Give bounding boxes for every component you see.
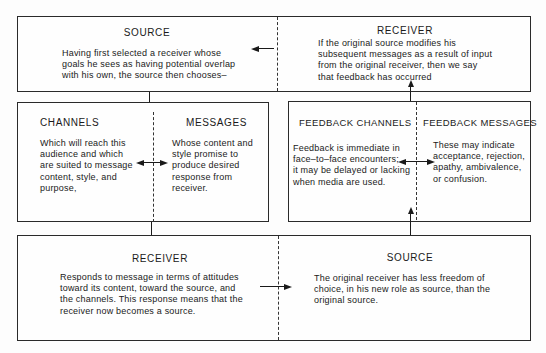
text-line: audience and which: [40, 149, 145, 160]
text-line: acceptance, rejection,: [433, 151, 528, 162]
text-line: choice, in his new role as source, than …: [314, 284, 529, 295]
arrow-channels-messages-line: [142, 162, 162, 163]
arrow-right-icon: [427, 159, 435, 165]
arrow-up-icon: [408, 207, 414, 214]
arrow-left-icon: [251, 46, 259, 52]
messages-text: Whose content and style promise to produ…: [172, 138, 267, 194]
source-title: SOURCE: [17, 27, 277, 38]
text-line: with his own, the source then chooses–: [62, 70, 262, 81]
arrow-right-icon: [284, 284, 292, 290]
bottom-divider: [278, 236, 279, 340]
arrow-receiver-to-source-line: [260, 286, 286, 287]
text-line: purpose,: [40, 183, 145, 194]
feedback-channels-title: FEEDBACK CHANNELS: [299, 117, 411, 128]
text-line: that feedback has occurred: [318, 72, 528, 83]
text-line: The original receiver has less freedom o…: [314, 273, 529, 284]
channels-text: Which will reach this audience and which…: [40, 138, 145, 194]
bottom-receiver-title: RECEIVER: [100, 253, 220, 264]
text-line: response from: [172, 172, 267, 183]
bottom-source-text: The original receiver has less freedom o…: [314, 273, 529, 307]
feedback-channels-text: Feedback is immediate in face–to–face en…: [293, 143, 418, 188]
feedback-messages-title: FEEDBACK MESSAGES: [423, 117, 537, 128]
text-line: Whose content and: [172, 138, 267, 149]
text-line: style promise to: [172, 149, 267, 160]
arrow-up-icon: [408, 80, 414, 87]
channels-messages-divider: [153, 112, 154, 222]
arrow-feedback-channels-messages-line: [404, 161, 428, 162]
top-divider: [277, 17, 278, 91]
source-text: Having first selected a receiver whose g…: [62, 48, 262, 82]
text-line: Having first selected a receiver whose: [62, 48, 262, 59]
text-line: the channels. This response means that t…: [60, 294, 275, 305]
text-line: These may indicate: [433, 140, 528, 151]
text-line: If the original source modifies his: [318, 38, 528, 49]
channels-title: CHANNELS: [40, 117, 99, 128]
text-line: subsequent messages as a result of input: [318, 49, 528, 60]
text-line: goals he sees as having potential overla…: [62, 59, 262, 70]
bottom-source-title: SOURCE: [350, 252, 470, 263]
text-line: from the original receiver, then we say: [318, 60, 528, 71]
text-line: or confusion.: [433, 174, 528, 185]
feedback-messages-text: These may indicate acceptance, rejection…: [433, 140, 528, 185]
text-line: Which will reach this: [40, 138, 145, 149]
arrow-feedback-to-source-line: [258, 48, 274, 49]
receiver-text: If the original source modifies his subs…: [318, 38, 528, 83]
text-line: apathy, ambivalence,: [433, 162, 528, 173]
text-line: receiver.: [172, 183, 267, 194]
text-line: original source.: [314, 295, 529, 306]
text-line: Feedback is immediate in: [293, 143, 418, 154]
text-line: Responds to message in terms of attitude…: [60, 272, 275, 283]
bottom-receiver-text: Responds to message in terms of attitude…: [60, 272, 275, 317]
arrow-right-icon: [160, 160, 168, 166]
arrow-left-icon: [136, 160, 144, 166]
text-line: are suited to message: [40, 160, 145, 171]
text-line: produce desired: [172, 160, 267, 171]
receiver-title: RECEIVER: [310, 25, 500, 36]
text-line: content, style, and: [40, 172, 145, 183]
text-line: toward its content, toward the source, a…: [60, 283, 275, 294]
text-line: it may be delayed or lacking: [293, 165, 418, 176]
text-line: receiver now becomes a source.: [60, 306, 275, 317]
messages-title: MESSAGES: [186, 117, 247, 128]
arrow-left-icon: [398, 159, 406, 165]
text-line: when media are used.: [293, 177, 418, 188]
